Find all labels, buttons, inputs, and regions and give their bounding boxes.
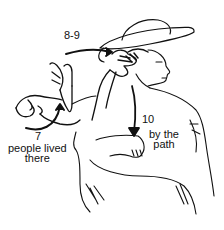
step-7-caption: people lived there [8, 143, 67, 163]
body-drawing [72, 88, 214, 214]
step-10-number: 10 [142, 114, 154, 124]
step-8-9-number: 8-9 [64, 30, 80, 40]
hat-drawing [99, 20, 194, 62]
arrow-10 [129, 86, 139, 136]
arrow-8-9 [66, 48, 112, 56]
face-drawing [136, 50, 170, 88]
step-10-caption: by the path [149, 129, 179, 149]
sign-language-illustration [0, 0, 224, 230]
step-10-caption-line2: path [149, 139, 179, 149]
step-7-caption-line2: there [8, 153, 67, 163]
step-7-number: 7 [35, 131, 41, 141]
